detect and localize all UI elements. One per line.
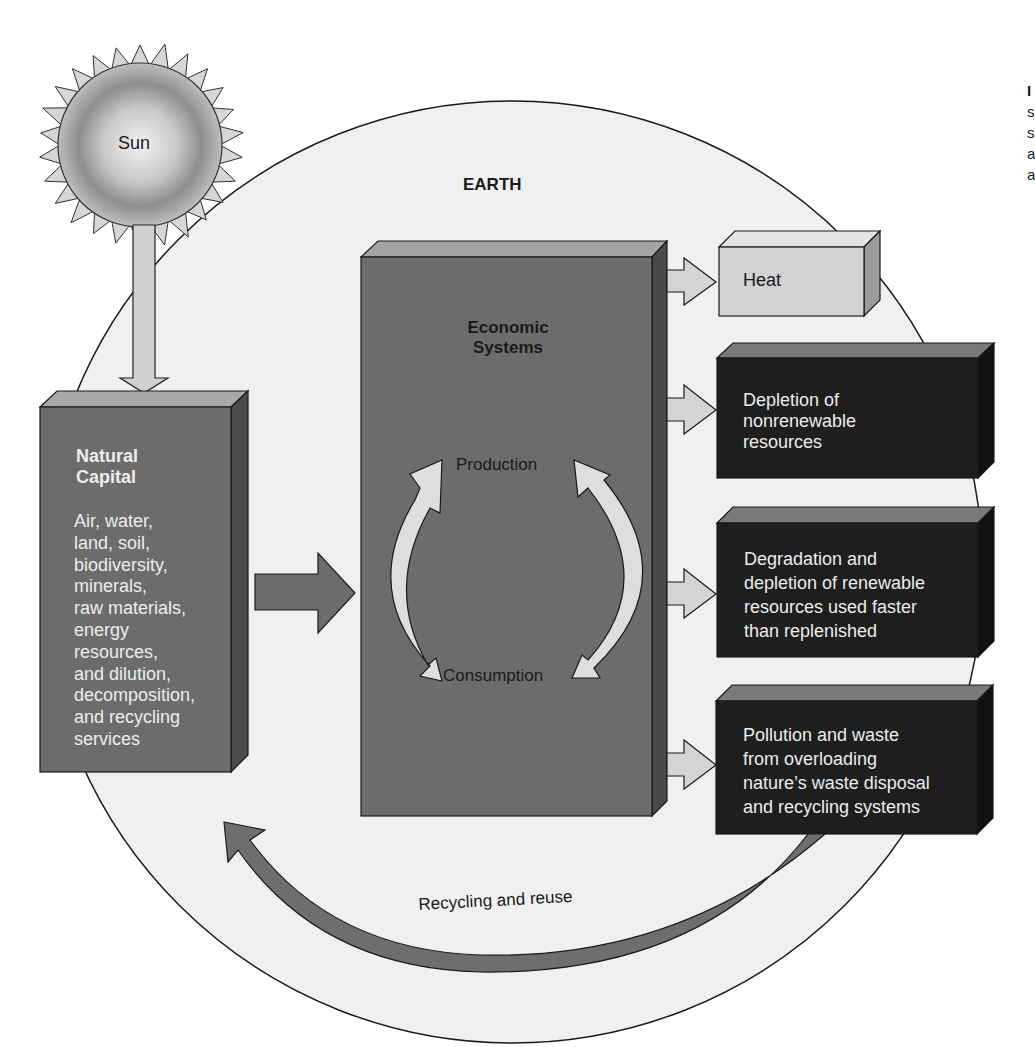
natural-capital-line: energy (74, 620, 195, 642)
natural-capital-line: and dilution, (74, 664, 195, 686)
natural-capital-line: biodiversity, (74, 555, 195, 577)
pollution-line: from overloading (743, 747, 930, 771)
depletion-line: resources (743, 432, 856, 453)
depletion-label: Depletion of nonrenewable resources (743, 390, 856, 453)
natural-capital-line: raw materials, (74, 598, 195, 620)
pollution-line: nature’s waste disposal (743, 771, 930, 795)
natural-capital-line: decomposition, (74, 685, 195, 707)
depletion-line: nonrenewable (743, 411, 856, 432)
pollution-line: and recycling systems (743, 795, 930, 819)
degradation-line: resources used faster (744, 595, 925, 619)
natural-capital-line: Air, water, (74, 511, 195, 533)
natural-capital-title-line: Natural (76, 446, 138, 467)
pollution-label: Pollution and waste from overloading nat… (743, 723, 930, 819)
natural-capital-line: minerals, (74, 576, 195, 598)
edge-fragment-line: s (1027, 122, 1035, 143)
natural-capital-title: Natural Capital (76, 446, 138, 488)
natural-capital-title-line: Capital (76, 467, 138, 488)
natural-capital-line: resources, (74, 642, 195, 664)
natural-capital-line: and recycling (74, 707, 195, 729)
natural-capital-line: land, soil, (74, 533, 195, 555)
earth-label: EARTH (463, 175, 522, 195)
edge-fragment-line: s (1027, 101, 1035, 122)
edge-text-fragment: s s a a (1027, 101, 1035, 185)
consumption-label: Consumption (443, 666, 543, 686)
edge-fragment-line: a (1027, 164, 1035, 185)
edge-text-fragment: I (1027, 80, 1031, 101)
pollution-line: Pollution and waste (743, 723, 930, 747)
sun-label: Sun (118, 133, 150, 154)
heat-label: Heat (743, 270, 781, 291)
degradation-line: than replenished (744, 619, 925, 643)
degradation-line: depletion of renewable (744, 571, 925, 595)
natural-capital-line: services (74, 729, 195, 751)
natural-capital-body: Air, water, land, soil, biodiversity, mi… (74, 511, 195, 751)
economic-systems-title-line: Economic (458, 318, 558, 338)
edge-fragment-line: a (1027, 143, 1035, 164)
edge-fragment-line: I (1027, 80, 1031, 101)
economic-systems-title: Economic Systems (458, 318, 558, 358)
degradation-line: Degradation and (744, 547, 925, 571)
degradation-label: Degradation and depletion of renewable r… (744, 547, 925, 643)
depletion-line: Depletion of (743, 390, 856, 411)
economic-systems-title-line: Systems (458, 338, 558, 358)
production-label: Production (456, 455, 537, 475)
